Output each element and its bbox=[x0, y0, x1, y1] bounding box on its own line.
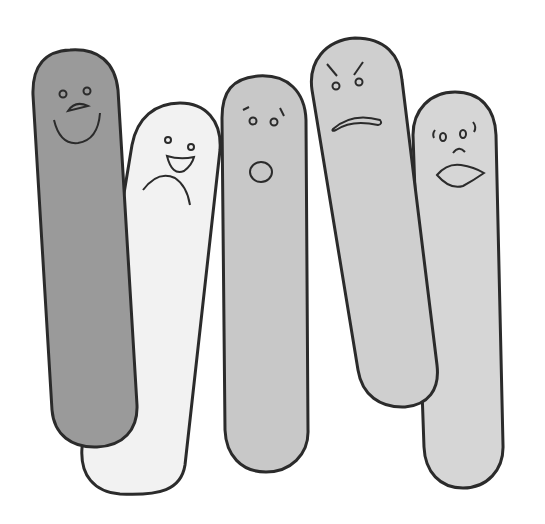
character-surprised bbox=[222, 76, 308, 472]
illustration-canvas bbox=[0, 0, 545, 524]
